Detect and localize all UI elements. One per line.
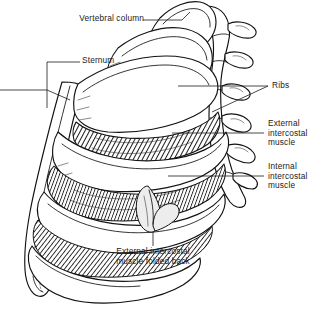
label-folded-flap: External intercostal muscle folded back [93,247,213,266]
label-vertebral-column-text: Vertebral column [79,13,144,23]
label-sternum: Sternum [82,56,114,66]
label-external-intercostal-line3: muscle [268,138,307,148]
label-internal-intercostal: Internal intercostal muscle [268,162,307,191]
label-ribs: Ribs [272,81,289,91]
label-internal-intercostal-line3: muscle [268,181,307,191]
label-ribs-text: Ribs [272,80,289,90]
label-external-intercostal: External intercostal muscle [268,119,307,148]
anatomical-figure: Vertebral column Sternum Ribs External i… [0,0,334,312]
label-folded-flap-line2: muscle folded back [93,257,213,267]
label-vertebral-column: Vertebral column [60,14,144,24]
rib-3 [74,56,218,132]
label-sternum-text: Sternum [82,55,114,65]
